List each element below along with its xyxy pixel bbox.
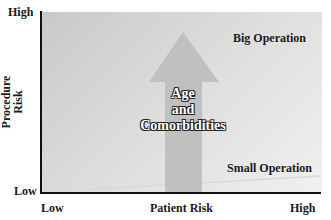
small-operation-label: Small Operation xyxy=(227,161,312,176)
y-axis-title-line2: Risk xyxy=(12,76,24,129)
arrow-label: Age and Comorbidities xyxy=(133,86,233,134)
x-axis-title: Patient Risk xyxy=(150,201,213,216)
y-axis-high-label: High xyxy=(8,5,33,20)
y-axis-low-label: Low xyxy=(14,184,37,199)
arrow-label-line2: and xyxy=(133,102,233,118)
big-operation-label: Big Operation xyxy=(233,31,306,46)
x-axis-high-label: High xyxy=(290,201,315,216)
x-axis-low-label: Low xyxy=(41,201,64,216)
arrow-label-line3: Comorbidities xyxy=(133,118,233,134)
arrow-label-line1: Age xyxy=(133,86,233,102)
